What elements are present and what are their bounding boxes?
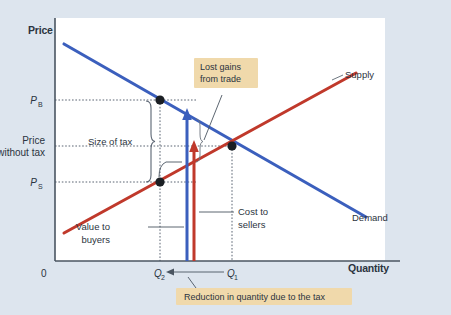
x-tick-q2-subscript: 2 (161, 274, 165, 281)
demand-curve-label: Demand (352, 212, 388, 223)
value-to-buyers-label-line-1: Value to (76, 221, 110, 232)
seller-price-point (155, 177, 164, 186)
y-tick-pb-subscript: B (38, 101, 43, 108)
cost-to-sellers-label-line-2: sellers (238, 219, 266, 230)
y-tick-ps-text: P (30, 177, 37, 188)
lost-gains-callout-line-1: Lost gains (200, 62, 242, 72)
y-tick-ps-subscript: S (38, 183, 43, 190)
lost-gains-callout-line-2: from trade (200, 74, 241, 84)
supply-curve-label: Supply (345, 69, 374, 80)
origin-label: 0 (41, 268, 47, 279)
y-tick-price-without-tax-line-1: Price (22, 135, 45, 146)
y-tick-pb-text: P (30, 95, 37, 106)
buyer-price-point (155, 95, 164, 104)
figure-canvas: Lost gains from trade Reduction in quant… (0, 0, 451, 315)
equilibrium-point (227, 141, 236, 150)
value-to-buyers-label-line-2: buyers (81, 234, 110, 245)
x-tick-q1-subscript: 1 (234, 274, 238, 281)
tax-deadweight-loss-figure: Lost gains from trade Reduction in quant… (0, 0, 451, 315)
x-axis-title: Quantity (348, 262, 389, 274)
y-axis-title: Price (28, 24, 53, 36)
y-tick-price-without-tax-line-2: without tax (0, 147, 45, 158)
cost-to-sellers-label-line-1: Cost to (238, 206, 268, 217)
size-of-tax-label: Size of tax (88, 136, 133, 147)
reduction-callout-line-1: Reduction in quantity due to the tax (184, 292, 326, 302)
